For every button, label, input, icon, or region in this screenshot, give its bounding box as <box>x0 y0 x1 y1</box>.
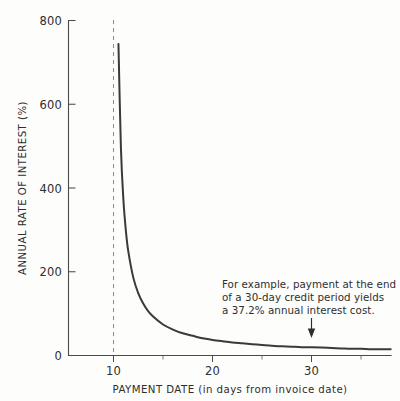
chart-background <box>0 0 400 401</box>
annotation-line-3: a 37.2% annual interest cost. <box>222 304 375 316</box>
annotation-line-2: of a 30-day credit period yields <box>222 291 384 303</box>
chart-figure: 800 600 400 200 0 10 20 30 For example, … <box>0 0 400 401</box>
x-tick-label-20: 20 <box>205 364 220 378</box>
x-tick-label-30: 30 <box>304 364 319 378</box>
annotation-line-1: For example, payment at the end <box>222 278 396 290</box>
y-tick-label-800: 800 <box>39 14 62 28</box>
interest-rate-chart: 800 600 400 200 0 10 20 30 For example, … <box>0 0 400 401</box>
x-axis-title: PAYMENT DATE (in days from invoice date) <box>112 384 347 395</box>
y-tick-label-0: 0 <box>54 349 62 363</box>
y-axis-title: ANNUAL RATE OF INTEREST (%) <box>17 101 28 275</box>
x-tick-label-10: 10 <box>106 364 121 378</box>
y-tick-label-400: 400 <box>39 182 62 196</box>
y-tick-label-200: 200 <box>39 265 62 279</box>
y-tick-label-600: 600 <box>39 98 62 112</box>
